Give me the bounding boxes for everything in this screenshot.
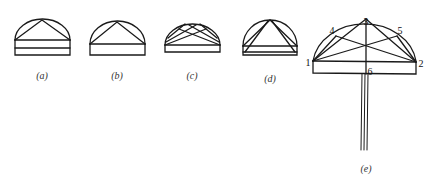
panel-d-drawing — [243, 20, 297, 55]
point-3-label: 3 — [364, 16, 369, 27]
point-1-label: 1 — [306, 57, 311, 68]
panel-e-label: (e) — [360, 163, 371, 174]
point-5-label: 5 — [398, 25, 403, 36]
point-2-label: 2 — [419, 58, 424, 69]
diagram-canvas — [0, 0, 426, 183]
panel-e-drawing — [313, 19, 416, 150]
point-4-label: 4 — [330, 25, 335, 36]
panel-a-drawing — [15, 19, 70, 55]
point-6-label: 6 — [368, 66, 373, 77]
panel-b-drawing — [90, 21, 145, 55]
panel-d-label: (d) — [264, 73, 276, 84]
panel-c-drawing — [165, 24, 220, 52]
panel-c-label: (c) — [186, 70, 197, 81]
panel-b-label: (b) — [111, 70, 123, 81]
panel-a-label: (a) — [36, 70, 48, 81]
